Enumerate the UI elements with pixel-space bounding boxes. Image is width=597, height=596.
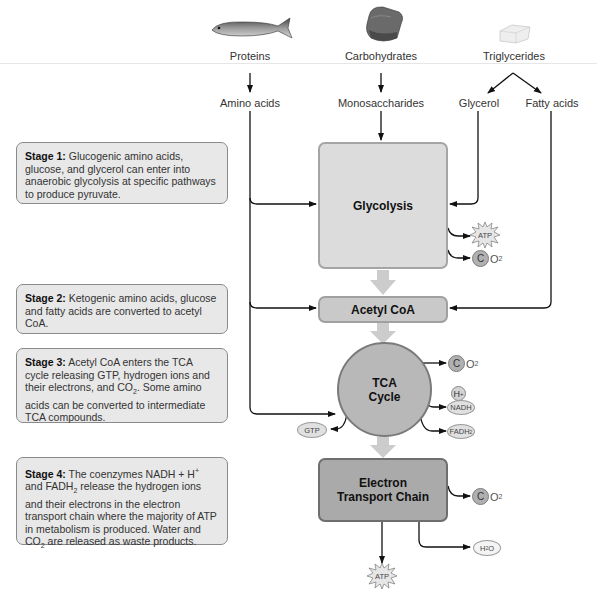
- glycolysis-label: Glycolysis: [353, 199, 413, 213]
- nadh-label: NADH: [450, 403, 471, 412]
- o-label: O: [488, 544, 494, 553]
- carbon-circle-icon: C: [472, 488, 489, 505]
- co2-etc: CO2: [472, 488, 502, 505]
- stage-4-text-a: The coenzymes NADH + H: [66, 468, 195, 480]
- stage-4-text-d: are released as waste products.: [45, 535, 197, 547]
- gtp-badge: GTP: [297, 422, 327, 438]
- h2o-badge: H2O: [473, 540, 501, 556]
- acetyl-coa-label: Acetyl CoA: [351, 303, 415, 317]
- etc-label: ElectronTransport Chain: [337, 476, 429, 504]
- stage-4-text-b: and FADH: [25, 480, 73, 492]
- monosaccharides-label: Monosaccharides: [331, 97, 431, 109]
- atp-burst-glycolysis: ATP: [470, 222, 500, 248]
- triglycerides-label: Triglycerides: [476, 50, 552, 62]
- stage-4-title: Stage 4:: [25, 468, 66, 480]
- sub-2: 2: [499, 255, 503, 262]
- sub-2: 2: [499, 493, 503, 500]
- sub-2: 2: [475, 360, 479, 367]
- stage-4-sup: +: [195, 467, 199, 474]
- bread-icon: [363, 4, 407, 44]
- gtp-label: GTP: [304, 426, 319, 435]
- etc-label-line1: Electron: [337, 476, 429, 490]
- hydrogen-ion-badge: H+: [451, 386, 466, 401]
- stage-3-title: Stage 3:: [25, 356, 66, 368]
- fish-icon: [208, 14, 294, 42]
- tca-cycle-circle: TCACycle: [337, 342, 432, 437]
- carbon-circle-icon: C: [448, 355, 465, 372]
- atp-burst-etc: ATP: [367, 563, 397, 589]
- stage-3-box: Stage 3: Acetyl CoA enters the TCA cycle…: [16, 348, 228, 423]
- glycolysis-box: Glycolysis: [318, 142, 448, 269]
- tca-label: TCACycle: [368, 376, 400, 404]
- o-label: O: [490, 491, 499, 503]
- tca-label-line2: Cycle: [368, 390, 400, 404]
- proteins-label: Proteins: [222, 50, 278, 62]
- atp-label: ATP: [478, 231, 492, 240]
- o-label: O: [466, 358, 475, 370]
- stage-1-box: Stage 1: Glucogenic amino acids, glucose…: [16, 142, 228, 204]
- carbon-circle-icon: C: [472, 250, 489, 267]
- fatty-acids-label: Fatty acids: [522, 97, 582, 109]
- carbohydrates-label: Carbohydrates: [336, 50, 426, 62]
- glycerol-label: Glycerol: [455, 97, 503, 109]
- butter-icon: [498, 21, 532, 45]
- electron-transport-chain-box: ElectronTransport Chain: [318, 458, 448, 522]
- plus-sup: +: [460, 391, 464, 397]
- fadh-label: FADH: [450, 427, 470, 436]
- atp-label: ATP: [375, 572, 389, 581]
- etc-label-line2: Transport Chain: [337, 490, 429, 504]
- co2-glycolysis: CO2: [472, 250, 502, 267]
- stage-2-box: Stage 2: Ketogenic amino acids, glucose …: [16, 284, 228, 334]
- stage-4-box: Stage 4: The coenzymes NADH + H+ and FAD…: [16, 457, 228, 545]
- o-label: O: [490, 253, 499, 265]
- stage-2-title: Stage 2:: [25, 292, 66, 304]
- amino-acids-label: Amino acids: [210, 97, 290, 109]
- nadh-badge: NADH: [447, 400, 475, 415]
- tca-label-line1: TCA: [368, 376, 400, 390]
- co2-tca: CO2: [448, 355, 478, 372]
- stage-1-title: Stage 1:: [25, 150, 66, 162]
- fadh2-badge: FADH2: [447, 424, 475, 439]
- sub-2: 2: [470, 429, 473, 435]
- acetyl-coa-box: Acetyl CoA: [318, 296, 448, 323]
